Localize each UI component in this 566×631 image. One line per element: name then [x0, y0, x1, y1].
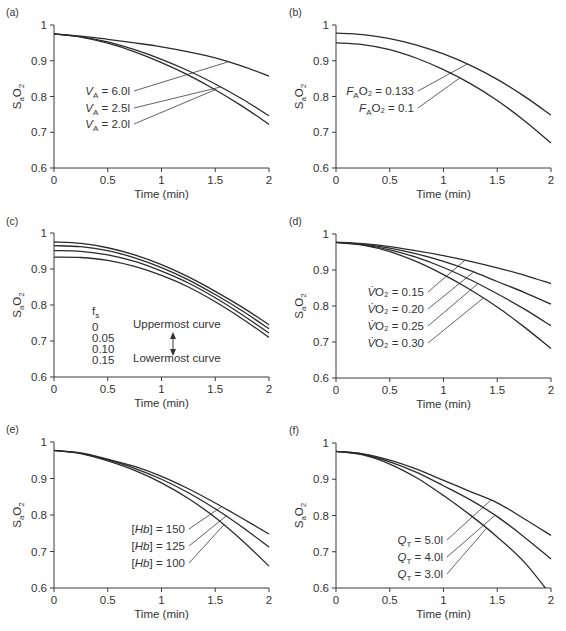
x-tick-label: 0.5: [382, 384, 398, 396]
leader-line: [189, 516, 226, 546]
x-tick-label: 2: [266, 594, 272, 606]
y-axis-title: SaO2: [11, 83, 26, 109]
panel-e: (e)0.60.70.80.9100.511.52Time (min)SaO2[…: [6, 423, 272, 620]
y-tick-label: 0.8: [313, 91, 329, 103]
panel-a: (a)0.60.70.80.9100.511.52Time (min)SaO2V…: [6, 6, 272, 200]
x-tick-label: 1.5: [207, 174, 223, 186]
leader-line: [134, 87, 221, 108]
y-tick-label: 0.6: [31, 582, 47, 594]
y-tick-label: 0.9: [313, 264, 329, 276]
x-axis-title: Time (min): [134, 397, 189, 409]
y-tick-label: 0.7: [31, 126, 47, 138]
panel-label: (f): [289, 424, 299, 436]
x-tick-label: 0: [333, 594, 339, 606]
x-tick-label: 0.5: [382, 594, 398, 606]
curve-fs-0: [54, 242, 269, 325]
y-tick-label: 0.8: [313, 510, 329, 522]
x-tick-label: 2: [548, 384, 554, 396]
x-tick-label: 1: [440, 384, 446, 396]
y-tick-label: 1: [323, 228, 329, 240]
y-axis-title: SaO2: [11, 292, 26, 318]
y-tick-label: 0.7: [31, 335, 47, 347]
y-tick-label: 0.7: [31, 546, 47, 558]
curve-label: QT = 3.0l: [398, 568, 444, 583]
curve-label: V̇O₂ = 0.25: [367, 320, 424, 332]
curve-qt-4-0l: [336, 451, 551, 559]
curve-va-6-0l: [54, 34, 269, 76]
x-axis-title: Time (min): [416, 398, 471, 410]
curve-label: QT = 5.0l: [398, 534, 444, 549]
x-tick-label: 2: [266, 174, 272, 186]
x-tick-label: 1: [440, 594, 446, 606]
curve-label: FAO₂ = 0.133: [346, 85, 414, 100]
x-tick-label: 1.5: [207, 594, 223, 606]
panel-label: (c): [6, 215, 18, 227]
x-tick-label: 1.5: [489, 174, 505, 186]
x-tick-label: 1: [440, 174, 446, 186]
legend-title: fs: [92, 305, 99, 320]
y-axis-title: SaO2: [11, 502, 26, 528]
x-tick-label: 1: [158, 594, 164, 606]
x-tick-label: 1: [158, 383, 164, 395]
y-tick-label: 0.8: [313, 300, 329, 312]
curve-label: FAO₂ = 0.1: [359, 102, 414, 117]
y-tick-label: 0.9: [31, 473, 47, 485]
curve-label: VA = 2.5l: [85, 102, 130, 117]
leader-line: [447, 515, 495, 557]
panel-label: (a): [6, 6, 19, 18]
curve-qt-5-0l: [336, 451, 551, 535]
curve-label: QT = 4.0l: [398, 551, 444, 566]
panel-d: (d)0.60.70.80.9100.511.52Time (min)SaO2V…: [289, 215, 554, 410]
x-axis-title: Time (min): [416, 188, 471, 200]
curve-label: [Hb] = 125: [132, 540, 185, 552]
curve-label: V̇O₂ = 0.30: [367, 337, 424, 349]
curve-label: [Hb] = 150: [132, 523, 185, 535]
x-tick-label: 2: [548, 174, 554, 186]
x-tick-label: 0.5: [100, 174, 116, 186]
y-tick-label: 0.8: [31, 509, 47, 521]
x-tick-label: 0: [333, 384, 339, 396]
y-tick-label: 0.9: [313, 55, 329, 67]
uppermost-note: Uppermost curve: [133, 318, 221, 330]
y-tick-label: 0.9: [31, 55, 47, 67]
six-panel-sao2-figure: (a)0.60.70.80.9100.511.52Time (min)SaO2V…: [0, 0, 566, 631]
y-tick-label: 0.7: [313, 126, 329, 138]
panel-b: (b)0.60.70.80.9100.511.52Time (min)SaO2F…: [289, 6, 554, 200]
curve-label: VA = 2.0l: [85, 118, 130, 133]
panel-label: (e): [6, 423, 19, 435]
legend-entry: 0.15: [92, 354, 114, 366]
x-tick-label: 0: [51, 383, 57, 395]
x-tick-label: 0.5: [100, 383, 116, 395]
y-axis-title: SaO2: [293, 293, 308, 319]
leader-line: [447, 500, 491, 540]
y-tick-label: 0.8: [31, 91, 47, 103]
x-axis-title: Time (min): [416, 608, 471, 620]
y-tick-label: 0.7: [313, 336, 329, 348]
curve-label: [Hb] = 100: [132, 557, 185, 569]
leader-line: [134, 62, 228, 91]
leader-line: [418, 78, 460, 108]
x-axis-title: Time (min): [134, 608, 189, 620]
leader-line: [189, 525, 224, 563]
y-tick-label: 0.6: [31, 162, 47, 174]
x-tick-label: 2: [266, 383, 272, 395]
curve--hb-150: [54, 450, 269, 534]
panel-label: (b): [289, 6, 302, 18]
arrow-up-icon: [170, 332, 176, 339]
curve-label: V̇O₂ = 0.20: [367, 303, 424, 315]
leader-line: [428, 298, 483, 343]
figure-grid: (a)0.60.70.80.9100.511.52Time (min)SaO2V…: [0, 0, 566, 631]
x-tick-label: 1.5: [489, 594, 505, 606]
y-tick-label: 0.9: [31, 263, 47, 275]
y-tick-label: 1: [41, 19, 47, 31]
y-tick-label: 0.6: [313, 582, 329, 594]
y-tick-label: 0.6: [313, 162, 329, 174]
fs-legend: fs00.050.100.15Uppermost curveLowermost …: [92, 305, 221, 366]
y-tick-label: 1: [41, 227, 47, 239]
x-tick-label: 1.5: [207, 383, 223, 395]
x-tick-label: 2: [548, 594, 554, 606]
leader-line: [134, 90, 215, 124]
y-tick-label: 0.7: [313, 546, 329, 558]
lowermost-note: Lowermost curve: [133, 352, 221, 364]
y-axis-title: SaO2: [293, 83, 308, 109]
